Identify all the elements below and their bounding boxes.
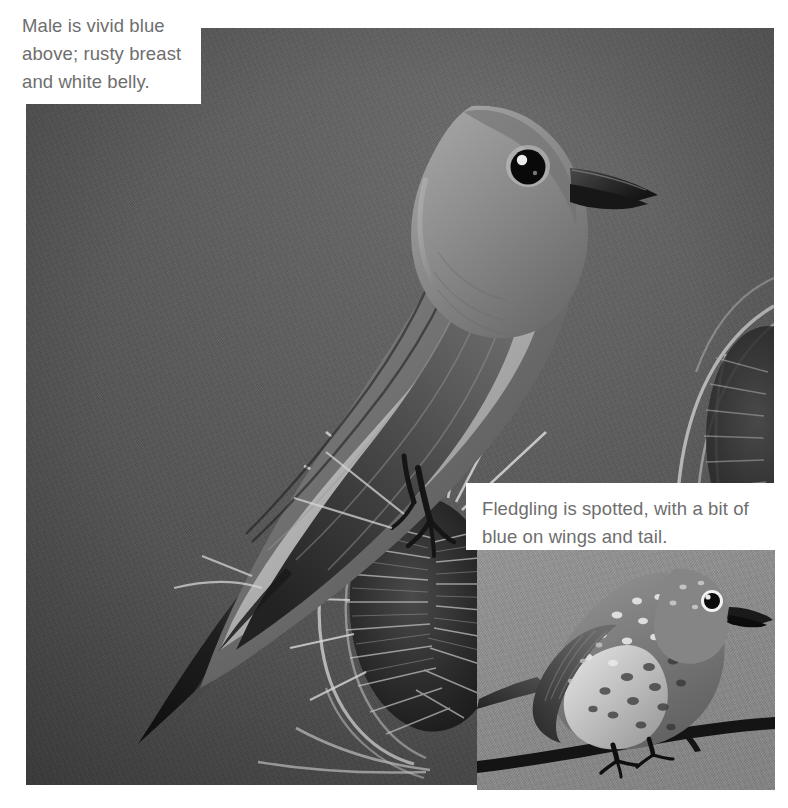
caption-fledgling: Fledgling is spotted, with a bit of blue… — [466, 483, 788, 550]
caption-fledgling-line-1: Fledgling is spotted, with a bit of — [482, 495, 778, 523]
fledgling-bluebird-photo — [477, 549, 775, 790]
fledgling-eye — [701, 590, 723, 612]
caption-male-line-2: above; rusty breast — [22, 40, 189, 68]
caption-fledgling-line-2: blue on wings and tail. — [482, 523, 778, 551]
fledgling-beak — [727, 607, 773, 627]
page-root: Male is vivid blue above; rusty breast a… — [0, 0, 788, 808]
caption-male: Male is vivid blue above; rusty breast a… — [0, 0, 201, 104]
fledgling-head — [654, 569, 730, 664]
fledgling-illustration — [477, 549, 775, 790]
caption-male-line-3: and white belly. — [22, 68, 189, 96]
caption-male-line-1: Male is vivid blue — [22, 12, 189, 40]
